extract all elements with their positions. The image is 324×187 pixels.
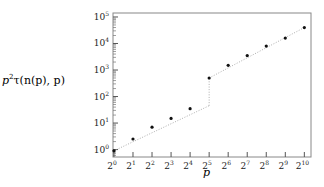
data-point — [265, 44, 268, 47]
data-point — [227, 64, 230, 67]
data-point — [169, 117, 172, 120]
x-tick-label: 26 — [221, 159, 231, 171]
x-tick-label: 23 — [164, 159, 174, 171]
data-point — [150, 126, 153, 129]
x-tick-label: 24 — [183, 159, 193, 171]
data-point — [246, 54, 249, 57]
data-point — [131, 137, 134, 140]
x-tick-label: 20 — [107, 159, 117, 171]
data-point — [284, 36, 287, 39]
chart-plot: 1001011021031041052021222324252627282921… — [0, 0, 324, 187]
dotted-curve-segment — [114, 106, 209, 151]
y-tick-label: 102 — [94, 90, 109, 102]
y-tick-label: 103 — [94, 63, 109, 75]
y-tick-label: 105 — [94, 10, 109, 22]
data-point — [112, 149, 115, 152]
dotted-curve-segment — [209, 28, 304, 78]
data-point — [208, 76, 211, 79]
x-tick-label: 21 — [126, 159, 136, 171]
y-tick-label: 104 — [94, 36, 109, 48]
y-tick-label: 101 — [94, 116, 109, 128]
data-point — [303, 26, 306, 29]
x-tick-label: 28 — [259, 159, 269, 171]
x-tick-label: 22 — [145, 159, 155, 171]
x-tick-label: 27 — [240, 159, 250, 171]
x-axis-label: p — [203, 166, 210, 179]
data-point — [189, 107, 192, 110]
plot-frame — [113, 13, 311, 157]
x-tick-label: 29 — [279, 159, 289, 171]
x-tick-label: 210 — [296, 159, 310, 171]
y-tick-label: 100 — [94, 143, 109, 155]
y-axis-label: p2τ(n(p), p) — [2, 73, 65, 87]
